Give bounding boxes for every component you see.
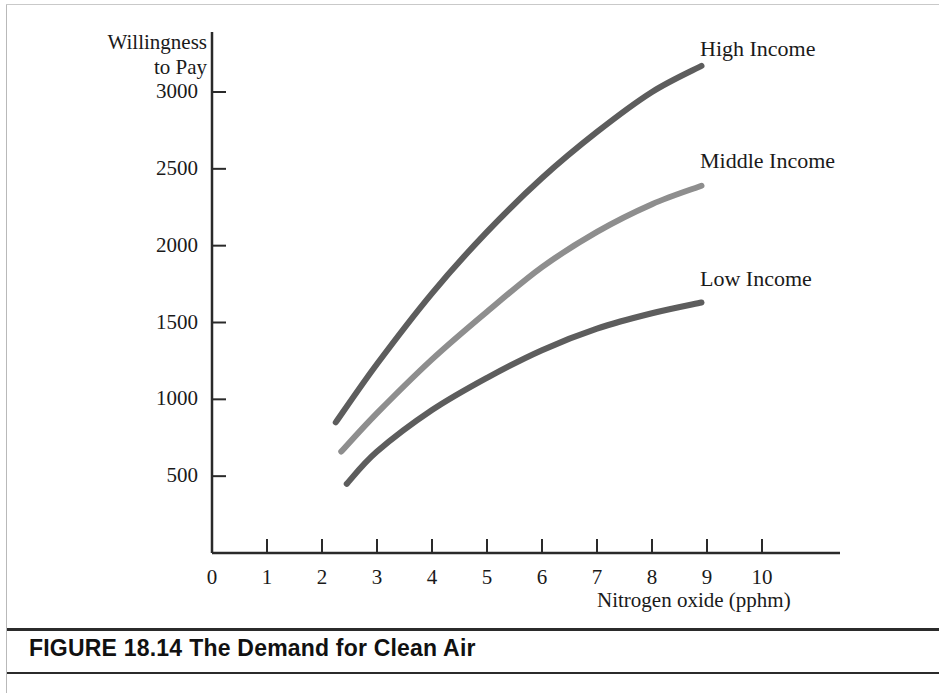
- x-axis-tick-label: 3: [357, 565, 397, 590]
- x-axis-tick-label: 8: [632, 565, 672, 590]
- y-axis-title-line1: Willingness: [62, 30, 207, 55]
- y-axis-title: Willingness to Pay: [62, 30, 207, 80]
- x-axis-tick-label: 0: [192, 565, 232, 590]
- plot-area: Willingness to Pay Nitrogen oxide (pphm)…: [0, 0, 939, 628]
- figure-caption: FIGURE 18.14The Demand for Clean Air: [29, 635, 476, 662]
- x-axis-tick-label: 9: [687, 565, 727, 590]
- figure-caption-band: FIGURE 18.14The Demand for Clean Air: [7, 628, 939, 693]
- x-axis-tick-label: 2: [302, 565, 342, 590]
- x-axis-tick-label: 10: [742, 565, 782, 590]
- series-curve: [336, 66, 702, 423]
- figure-title: The Demand for Clean Air: [189, 635, 475, 661]
- y-axis-ticks: [212, 92, 226, 476]
- x-axis-ticks: [267, 539, 762, 553]
- figure-number: FIGURE 18.14: [29, 635, 182, 661]
- x-axis-tick-label: 6: [522, 565, 562, 590]
- x-axis-tick-label: 1: [247, 565, 287, 590]
- y-axis-tick-label: 500: [108, 463, 198, 488]
- caption-rule-bottom: [7, 672, 939, 674]
- figure-container: Willingness to Pay Nitrogen oxide (pphm)…: [0, 0, 939, 693]
- x-axis-tick-label: 5: [467, 565, 507, 590]
- x-axis-title: Nitrogen oxide (pphm): [597, 588, 791, 613]
- y-axis-tick-label: 1500: [108, 310, 198, 335]
- caption-rule-top: [7, 628, 939, 631]
- series-curve: [341, 186, 701, 452]
- y-axis-tick-label: 2500: [108, 156, 198, 181]
- y-axis-tick-label: 2000: [108, 233, 198, 258]
- series-label: High Income: [700, 36, 815, 62]
- y-axis-title-line2: to Pay: [62, 55, 207, 80]
- series-curves: [336, 66, 702, 484]
- x-axis-tick-label: 4: [412, 565, 452, 590]
- y-axis-tick-label: 1000: [108, 386, 198, 411]
- series-label: Low Income: [700, 266, 812, 292]
- y-axis-tick-label: 3000: [108, 79, 198, 104]
- series-label: Middle Income: [700, 148, 835, 174]
- x-axis-tick-label: 7: [577, 565, 617, 590]
